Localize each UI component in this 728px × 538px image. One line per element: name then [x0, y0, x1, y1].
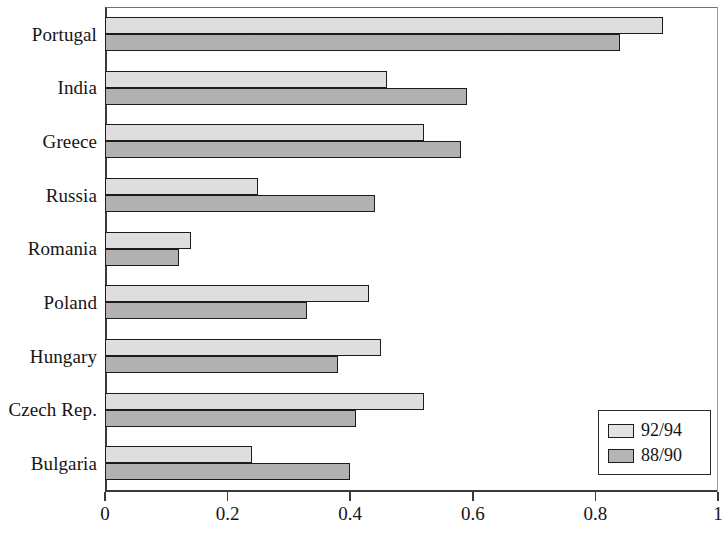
- bar-group: [105, 62, 718, 116]
- category-label: Greece: [0, 115, 97, 169]
- category-label: Hungary: [0, 330, 97, 384]
- x-axis-tick-label: 0.4: [338, 503, 362, 525]
- category-axis-labels: PortugalIndiaGreeceRussiaRomaniaPolandHu…: [0, 8, 97, 491]
- bar-88-90: [105, 410, 356, 427]
- legend: 92/9488/90: [598, 410, 711, 475]
- x-axis-tick-label: 0.2: [216, 503, 240, 525]
- x-axis-tick: [227, 492, 229, 501]
- bar-88-90: [105, 34, 620, 51]
- x-axis: 00.20.40.60.81: [105, 492, 718, 538]
- bar-group: [105, 330, 718, 384]
- bar-group: [105, 8, 718, 62]
- x-axis-tick-label: 0.8: [584, 503, 608, 525]
- legend-label: 92/94: [641, 420, 682, 441]
- bar-88-90: [105, 356, 338, 373]
- legend-item: 88/90: [608, 443, 710, 468]
- bar-88-90: [105, 249, 179, 266]
- bar-group: [105, 276, 718, 330]
- category-label: Portugal: [0, 8, 97, 62]
- bar-88-90: [105, 141, 461, 158]
- bar-92-94: [105, 71, 387, 88]
- x-axis-tick: [104, 492, 106, 501]
- legend-swatch-icon: [608, 424, 634, 438]
- bar-92-94: [105, 446, 252, 463]
- bar-88-90: [105, 88, 467, 105]
- legend-label: 88/90: [641, 445, 682, 466]
- bar-chart: PortugalIndiaGreeceRussiaRomaniaPolandHu…: [0, 0, 728, 538]
- x-axis-tick: [349, 492, 351, 501]
- x-axis-tick-label: 0: [100, 503, 110, 525]
- bar-92-94: [105, 232, 191, 249]
- bar-92-94: [105, 178, 258, 195]
- legend-item: 92/94: [608, 418, 710, 443]
- x-axis-tick: [472, 492, 474, 501]
- bar-88-90: [105, 463, 350, 480]
- bar-92-94: [105, 124, 424, 141]
- category-label: Russia: [0, 169, 97, 223]
- x-axis-tick-label: 0.6: [461, 503, 485, 525]
- category-label: Bulgaria: [0, 437, 97, 491]
- legend-swatch-icon: [608, 449, 634, 463]
- bar-88-90: [105, 302, 307, 319]
- category-label: India: [0, 62, 97, 116]
- x-axis-tick: [717, 492, 719, 501]
- bar-group: [105, 115, 718, 169]
- bar-92-94: [105, 17, 663, 34]
- bar-92-94: [105, 285, 369, 302]
- category-label: Czech Rep.: [0, 384, 97, 438]
- category-label: Romania: [0, 223, 97, 277]
- bar-group: [105, 223, 718, 277]
- bar-92-94: [105, 393, 424, 410]
- category-label: Poland: [0, 276, 97, 330]
- bar-88-90: [105, 195, 375, 212]
- bar-group: [105, 169, 718, 223]
- bar-92-94: [105, 339, 381, 356]
- x-axis-tick-label: 1: [713, 503, 723, 525]
- x-axis-tick: [595, 492, 597, 501]
